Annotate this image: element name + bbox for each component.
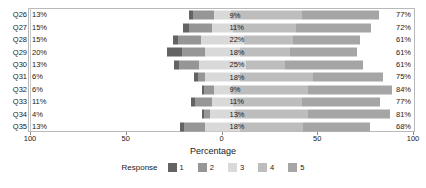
row-mid-percent: 11% (230, 24, 244, 32)
legend-item-4[interactable]: 4 (258, 163, 274, 172)
row-category-label: Q34 (3, 111, 27, 119)
row-mid-percent: 18% (230, 73, 245, 81)
bar-segment-2 (179, 60, 198, 69)
row-mid-percent: 13% (230, 111, 245, 119)
bar-segment-4 (240, 122, 303, 131)
row-category-label: Q31 (3, 73, 27, 81)
table-row: Q2613%77%9% (29, 9, 414, 21)
legend-label: 3 (240, 163, 244, 172)
bar-rows: Q2613%77%9%Q2715%72%11%Q2815%61%22%Q2920… (29, 9, 414, 131)
row-category-label: Q26 (3, 11, 27, 19)
bar-segment-2 (182, 48, 205, 57)
bar-segment-2 (195, 97, 212, 106)
legend-swatch (198, 163, 207, 172)
axis-tick-label: 100 (24, 135, 37, 143)
row-mid-percent: 25% (230, 61, 245, 69)
bar-segment-2 (204, 85, 214, 94)
bar-segment-5 (302, 97, 381, 106)
legend-label: 2 (210, 163, 214, 172)
bar-segment-2 (184, 122, 205, 131)
x-axis-title: Percentage (0, 146, 426, 156)
stacked-bar: 18% (29, 48, 414, 57)
axis-tick-label: 0 (219, 135, 223, 143)
bar-segment-4 (246, 60, 284, 69)
stacked-bar: 18% (29, 122, 414, 131)
row-category-label: Q27 (3, 24, 27, 32)
legend-swatch (258, 163, 267, 172)
legend-item-1[interactable]: 1 (168, 163, 184, 172)
legend-label: 1 (180, 163, 184, 172)
row-category-label: Q28 (3, 36, 27, 44)
axis-tick-label: 50 (122, 135, 130, 143)
row-mid-percent: 18% (230, 49, 245, 57)
table-row: Q3013%61%25% (29, 59, 414, 71)
legend-title: Response (122, 163, 158, 172)
table-row: Q316%75%18% (29, 71, 414, 83)
table-row: Q344%81%13% (29, 108, 414, 120)
row-category-label: Q29 (3, 49, 27, 57)
table-row: Q2815%61%22% (29, 34, 414, 46)
stacked-bar: 11% (29, 23, 414, 32)
bar-segment-5 (293, 35, 360, 44)
bar-segment-2 (178, 35, 201, 44)
stacked-bar: 18% (29, 73, 414, 82)
legend-item-2[interactable]: 2 (198, 163, 214, 172)
stacked-bar: 9% (29, 11, 414, 20)
bar-segment-5 (303, 122, 370, 131)
legend-item-3[interactable]: 3 (228, 163, 244, 172)
diverging-stacked-bar-chart: Q2613%77%9%Q2715%72%11%Q2815%61%22%Q2920… (0, 0, 426, 188)
legend-label: 5 (300, 163, 304, 172)
bar-segment-4 (231, 11, 302, 20)
legend-label: 4 (270, 163, 274, 172)
row-category-label: Q30 (3, 61, 27, 69)
legend-swatch (168, 163, 177, 172)
stacked-bar: 13% (29, 110, 414, 119)
row-mid-percent: 9% (230, 11, 241, 19)
plot-area: Q2613%77%9%Q2715%72%11%Q2815%61%22%Q2920… (28, 8, 415, 132)
row-mid-percent: 18% (230, 123, 245, 131)
x-axis: 10050050100 (28, 132, 415, 146)
row-mid-percent: 9% (230, 86, 241, 94)
stacked-bar: 11% (29, 97, 414, 106)
bar-segment-4 (240, 73, 313, 82)
bar-segment-4 (240, 48, 290, 57)
bar-segment-5 (308, 110, 390, 119)
axis-tick-label: 50 (313, 135, 321, 143)
legend-item-5[interactable]: 5 (288, 163, 304, 172)
bar-segment-5 (313, 73, 384, 82)
axis-tick-label: 100 (407, 135, 420, 143)
table-row: Q3311%77%11% (29, 96, 414, 108)
stacked-bar: 22% (29, 35, 414, 44)
bar-segment-5 (302, 11, 379, 20)
table-row: Q2920%61%18% (29, 46, 414, 58)
table-row: Q2715%72%11% (29, 21, 414, 33)
bar-segment-5 (308, 85, 392, 94)
bar-segment-5 (285, 60, 364, 69)
bar-segment-4 (244, 35, 294, 44)
bar-segment-1 (167, 48, 182, 57)
bar-segment-4 (231, 85, 308, 94)
bar-segment-2 (198, 73, 206, 82)
stacked-bar: 9% (29, 85, 414, 94)
row-category-label: Q32 (3, 86, 27, 94)
row-mid-percent: 11% (230, 98, 244, 106)
legend: Response 12345 (0, 163, 426, 172)
legend-swatch (288, 163, 297, 172)
stacked-bar: 25% (29, 60, 414, 69)
bar-segment-5 (290, 48, 357, 57)
bar-segment-4 (235, 110, 308, 119)
label-divider (30, 8, 31, 132)
bar-segment-2 (193, 11, 214, 20)
row-mid-percent: 22% (230, 36, 245, 44)
row-category-label: Q33 (3, 98, 27, 106)
table-row: Q326%84%9% (29, 83, 414, 95)
bar-segment-5 (296, 23, 371, 32)
bar-segment-2 (189, 23, 212, 32)
row-category-label: Q35 (3, 123, 27, 131)
legend-swatch (228, 163, 237, 172)
